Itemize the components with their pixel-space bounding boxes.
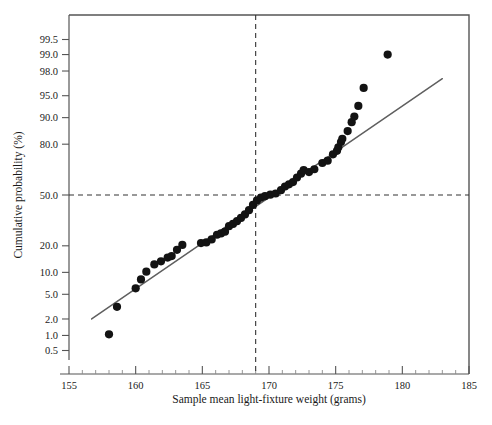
y-axis-title: Cumulative probability (%) [12, 131, 25, 258]
data-point [132, 284, 140, 292]
data-point [168, 252, 176, 260]
data-point [105, 330, 113, 338]
data-point [178, 241, 186, 249]
data-point [310, 165, 318, 173]
y-tick-label: 50.0 [40, 190, 58, 201]
x-tick-label: 175 [328, 380, 344, 391]
data-point [137, 275, 145, 283]
y-tick-label: 90.0 [40, 112, 58, 123]
x-tick-label: 180 [394, 380, 410, 391]
data-point [354, 102, 362, 110]
y-tick-label: 2.0 [45, 314, 58, 325]
x-tick-label: 185 [461, 380, 477, 391]
y-tick-label: 98.0 [40, 66, 58, 77]
normal-probability-plot-figure: 0.51.02.05.010.020.050.080.090.095.098.0… [0, 0, 492, 425]
x-tick-label: 170 [261, 380, 277, 391]
data-point [113, 303, 121, 311]
data-point [142, 268, 150, 276]
y-tick-label: 99.5 [40, 34, 58, 45]
y-tick-label: 95.0 [40, 90, 58, 101]
y-tick-label: 99.0 [40, 49, 58, 60]
data-point [344, 127, 352, 135]
data-point [350, 112, 358, 120]
y-tick-label: 1.0 [45, 330, 58, 341]
x-tick-label: 160 [128, 380, 144, 391]
y-tick-label: 0.5 [45, 345, 58, 356]
x-tick-label: 165 [194, 380, 210, 391]
y-tick-label: 5.0 [45, 289, 58, 300]
x-tick-label: 155 [61, 380, 77, 391]
data-point [338, 135, 346, 143]
y-tick-label: 80.0 [40, 139, 58, 150]
chart-canvas: 0.51.02.05.010.020.050.080.090.095.098.0… [0, 0, 492, 425]
y-tick-label: 10.0 [40, 267, 58, 278]
data-point [360, 84, 368, 92]
x-axis-title: Sample mean light-fixture weight (grams) [172, 393, 366, 406]
data-point [384, 50, 392, 58]
y-tick-label: 20.0 [40, 240, 58, 251]
data-point [324, 157, 332, 165]
